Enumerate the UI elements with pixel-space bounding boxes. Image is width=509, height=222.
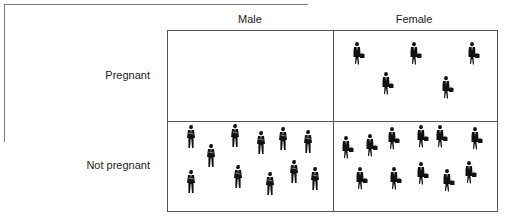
row-label-pregnant: Pregnant <box>0 69 150 81</box>
male-figure-icon <box>309 167 321 191</box>
female-figure-icon <box>389 167 403 191</box>
row-label-not-pregnant: Not pregnant <box>0 159 150 171</box>
female-figure-icon <box>352 42 366 66</box>
female-figure-icon <box>470 127 484 151</box>
female-figure-icon <box>441 76 455 100</box>
female-figure-icon <box>416 125 430 149</box>
male-figure-icon <box>255 131 267 155</box>
female-figure-icon <box>464 161 478 185</box>
male-figure-icon <box>232 165 244 189</box>
male-figure-icon <box>185 125 197 149</box>
column-label-female: Female <box>354 13 474 25</box>
male-figure-icon <box>205 144 217 168</box>
female-figure-icon <box>442 169 456 193</box>
female-figure-icon <box>341 136 355 160</box>
male-figure-icon <box>229 124 241 148</box>
female-figure-icon <box>409 42 423 66</box>
column-label-male: Male <box>190 13 310 25</box>
female-figure-icon <box>381 72 395 96</box>
female-figure-icon <box>435 125 449 149</box>
male-figure-icon <box>185 170 197 194</box>
grid-horizontal-divider <box>168 121 497 122</box>
male-figure-icon <box>277 127 289 151</box>
male-figure-icon <box>288 160 300 184</box>
female-figure-icon <box>387 127 401 151</box>
female-figure-icon <box>416 162 430 186</box>
female-figure-icon <box>365 134 379 158</box>
male-figure-icon <box>302 130 314 154</box>
female-figure-icon <box>355 167 369 191</box>
female-figure-icon <box>467 42 481 66</box>
decorative-frame-top <box>4 4 308 5</box>
male-figure-icon <box>264 172 276 196</box>
